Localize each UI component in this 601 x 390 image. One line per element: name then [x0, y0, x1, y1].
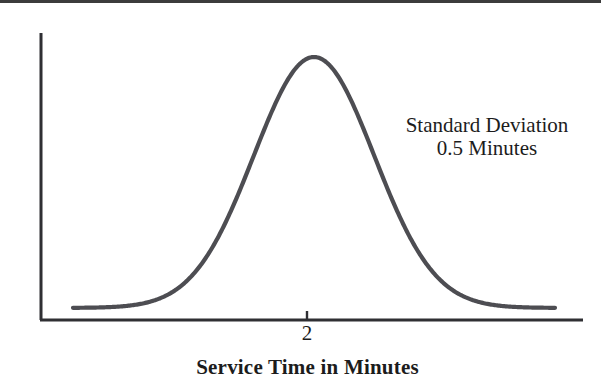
figure-panel: Standard Deviation 0.5 Minutes 2 Service… [0, 0, 601, 390]
gaussian-curve-path [73, 57, 555, 308]
annotation-line-1: Standard Deviation [398, 114, 576, 137]
x-axis-tick-label-2: 2 [287, 322, 327, 345]
standard-deviation-annotation: Standard Deviation 0.5 Minutes [398, 114, 576, 159]
x-axis-title: Service Time in Minutes [55, 356, 560, 379]
annotation-line-2: 0.5 Minutes [398, 137, 576, 160]
